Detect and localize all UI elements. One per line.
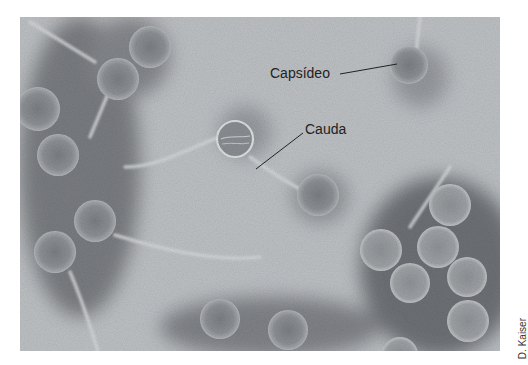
photo-credit: D. Kaiser [517,318,528,359]
micrograph-image [20,17,500,351]
capsid-label: Capsídeo [270,66,330,80]
tail-label: Cauda [305,122,346,136]
electron-micrograph [20,17,500,351]
